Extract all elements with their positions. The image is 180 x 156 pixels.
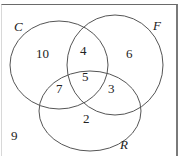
set-label-f: F bbox=[152, 18, 162, 33]
circle-f bbox=[67, 15, 163, 115]
set-label-r: R bbox=[119, 137, 128, 152]
venn-diagram: C F R 10 4 6 5 7 3 2 9 bbox=[0, 0, 180, 156]
region-r-only: 2 bbox=[83, 111, 90, 126]
region-c-and-r: 7 bbox=[56, 81, 63, 96]
region-c-and-f: 4 bbox=[80, 43, 87, 58]
region-c-only: 10 bbox=[36, 46, 49, 61]
region-outside: 9 bbox=[11, 128, 18, 143]
region-f-only: 6 bbox=[126, 46, 133, 61]
region-f-and-r: 3 bbox=[108, 81, 115, 96]
set-label-c: C bbox=[14, 19, 23, 34]
region-c-f-r: 5 bbox=[82, 69, 89, 84]
